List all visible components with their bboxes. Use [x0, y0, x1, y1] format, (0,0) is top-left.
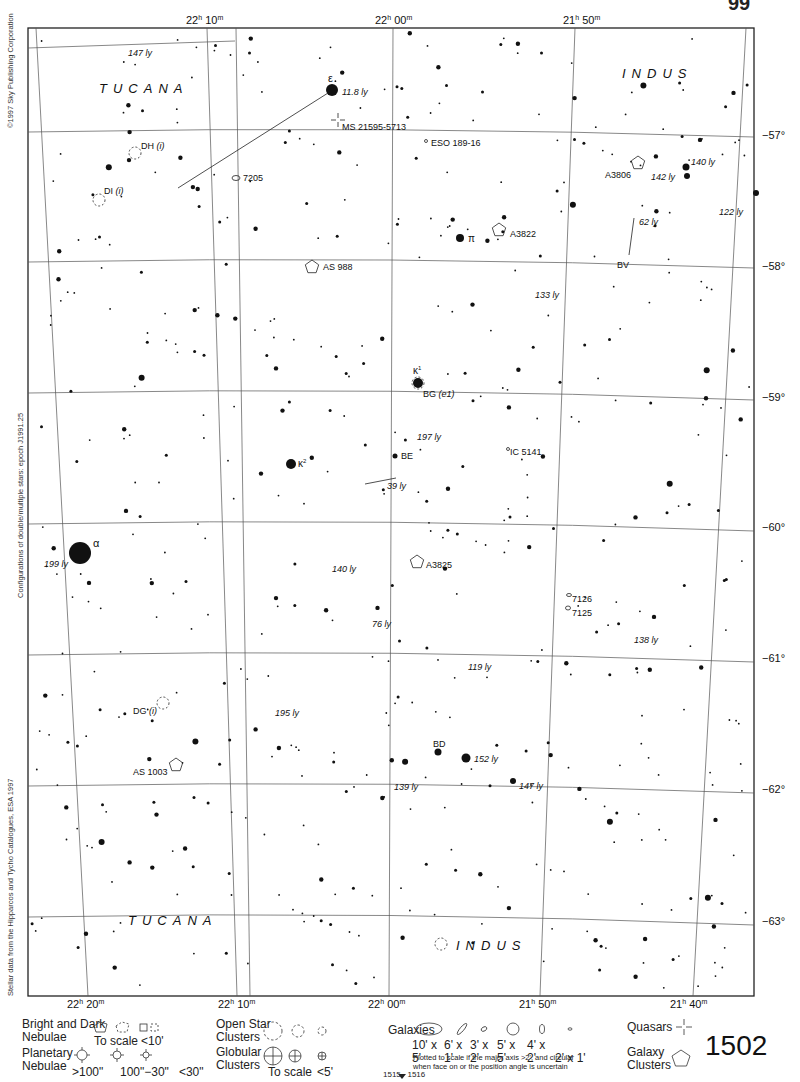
star: [39, 730, 41, 732]
galaxy-cluster-icon: [305, 260, 318, 273]
star: [158, 482, 160, 484]
star: [690, 645, 692, 647]
star: [293, 339, 295, 341]
star: [490, 330, 492, 332]
constellation-tucana-bottom: TUCANA: [128, 913, 217, 928]
star: [698, 434, 700, 436]
star: [527, 545, 531, 549]
star: [109, 244, 111, 246]
star: [631, 92, 633, 94]
star: [109, 308, 111, 310]
bright-star: [684, 173, 690, 179]
star: [739, 417, 743, 421]
variable-star-ring-icon: [435, 938, 447, 950]
star: [608, 673, 611, 676]
star: [84, 932, 88, 936]
star: [175, 343, 177, 345]
star: [273, 337, 275, 339]
star: [384, 88, 386, 90]
star: [123, 112, 125, 114]
star: [420, 449, 422, 451]
dist-label: 39 ly: [387, 481, 407, 491]
star: [436, 65, 440, 69]
galaxy-cluster-symbol-icon: [670, 1048, 692, 1068]
dist-label: 147 ly: [519, 781, 544, 791]
star: [411, 702, 413, 704]
star: [633, 515, 637, 519]
star: [475, 540, 477, 542]
star: [69, 390, 72, 393]
star: [247, 963, 249, 965]
star: [734, 142, 736, 144]
star: [502, 215, 506, 219]
dist-label: 76 ly: [372, 619, 392, 629]
star: [165, 340, 167, 342]
star: [615, 601, 617, 603]
star: [257, 61, 259, 63]
star: [246, 678, 248, 680]
star: [191, 77, 193, 79]
star: [665, 839, 667, 841]
star: [253, 227, 257, 231]
variable-star-ring-icon: [129, 147, 141, 159]
star: [744, 155, 746, 157]
configuration-note: Configurations of double/multiple stars:…: [16, 413, 25, 598]
star: [223, 682, 226, 685]
star: [456, 593, 458, 595]
star: [552, 527, 555, 530]
star: [640, 83, 646, 89]
star: [615, 400, 617, 402]
star: [348, 376, 350, 378]
star: [688, 159, 690, 161]
ra-line: [693, 28, 746, 996]
star: [570, 674, 572, 676]
star: [398, 218, 400, 220]
bright-star: [413, 378, 423, 388]
star: [249, 36, 253, 40]
star: [521, 459, 523, 461]
star: [214, 44, 217, 47]
star: [583, 343, 586, 346]
star: [122, 427, 126, 431]
star: [207, 802, 210, 805]
star: [62, 694, 64, 696]
star: [176, 692, 178, 694]
star: [502, 387, 504, 389]
star: [613, 841, 615, 843]
star: [585, 798, 587, 800]
star: [354, 982, 357, 985]
star: [507, 508, 509, 510]
star: [154, 171, 156, 173]
legend-planetary-size: <30": [179, 1065, 204, 1079]
adjacent-page-link[interactable]: 1516: [407, 1070, 425, 1079]
star: [607, 624, 609, 626]
star: [704, 367, 710, 373]
legend-planetary: Planetary Nebulae: [22, 1047, 73, 1073]
star: [293, 604, 296, 607]
star: [113, 931, 115, 933]
star: [261, 633, 263, 635]
star: [278, 894, 280, 896]
legend-gc-title-2: Clusters: [627, 1059, 671, 1072]
star: [538, 113, 540, 115]
star-label-kappa1: κ1: [413, 365, 422, 376]
star: [215, 313, 219, 317]
star: [394, 702, 396, 704]
dec-line: [28, 260, 754, 268]
star: [741, 560, 743, 562]
star: [547, 315, 549, 317]
star: [517, 52, 519, 54]
star: [701, 138, 703, 140]
star: [191, 185, 195, 189]
star: [717, 509, 720, 512]
star: [439, 102, 441, 104]
star: [396, 85, 399, 88]
star: [382, 488, 385, 491]
star: [319, 57, 321, 59]
star: [499, 43, 502, 46]
label-bg: BG (e1): [423, 389, 455, 399]
galaxy-icon: [567, 594, 572, 597]
star: [549, 753, 553, 757]
star: [672, 958, 675, 961]
star: [745, 912, 747, 914]
